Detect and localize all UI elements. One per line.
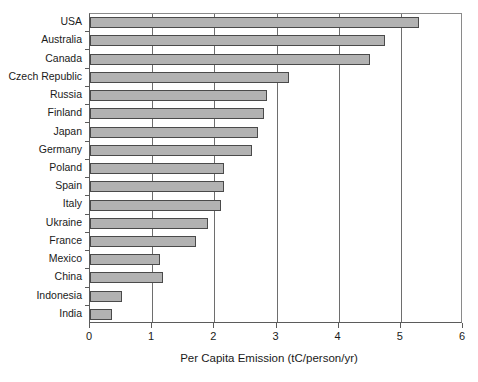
- bar-row: [90, 105, 461, 123]
- y-axis-label: Italy: [0, 198, 82, 209]
- bar: [90, 236, 196, 247]
- y-axis-label: Ukraine: [0, 217, 82, 228]
- x-axis-tick-label: 1: [136, 330, 166, 342]
- bar-row: [90, 87, 461, 105]
- y-axis-tick: [85, 287, 89, 288]
- bar-row: [90, 160, 461, 178]
- x-axis-tick-label: 5: [385, 330, 415, 342]
- bar-row: [90, 233, 461, 251]
- bar-row: [90, 306, 461, 324]
- y-axis-tick: [85, 159, 89, 160]
- y-axis-label: France: [0, 235, 82, 246]
- x-axis-tick: [400, 323, 401, 328]
- bar-row: [90, 14, 461, 32]
- bar-series: [90, 14, 461, 322]
- y-axis-label: India: [0, 308, 82, 319]
- y-axis-label: Spain: [0, 180, 82, 191]
- y-axis-label: Poland: [0, 162, 82, 173]
- bar: [90, 200, 221, 211]
- y-axis-label: USA: [0, 16, 82, 27]
- bar-row: [90, 32, 461, 50]
- y-axis-tick: [85, 195, 89, 196]
- bar: [90, 54, 370, 65]
- bar: [90, 254, 160, 265]
- y-axis-label: Australia: [0, 34, 82, 45]
- x-axis-tick: [151, 323, 152, 328]
- bar-row: [90, 142, 461, 160]
- y-axis-tick: [85, 305, 89, 306]
- y-axis-tick: [85, 122, 89, 123]
- y-axis-label: Mexico: [0, 253, 82, 264]
- bar: [90, 72, 289, 83]
- bar: [90, 309, 112, 320]
- bar: [90, 218, 208, 229]
- y-axis-tick: [85, 68, 89, 69]
- y-axis-label: Japan: [0, 126, 82, 137]
- bar-row: [90, 50, 461, 68]
- x-axis-tick-label: 6: [447, 330, 477, 342]
- bar-row: [90, 288, 461, 306]
- x-axis-tick-label: 4: [323, 330, 353, 342]
- x-axis-tick-label: 0: [74, 330, 104, 342]
- x-axis-tick: [89, 323, 90, 328]
- bar: [90, 17, 419, 28]
- x-axis-tick: [338, 323, 339, 328]
- y-axis-tick: [85, 268, 89, 269]
- bar: [90, 163, 224, 174]
- y-axis-label: Indonesia: [0, 290, 82, 301]
- bar: [90, 35, 385, 46]
- y-axis-label: Finland: [0, 107, 82, 118]
- x-axis-tick-label: 2: [198, 330, 228, 342]
- y-axis-label: China: [0, 271, 82, 282]
- y-axis-tick: [85, 232, 89, 233]
- x-axis-tick: [276, 323, 277, 328]
- y-axis-tick: [85, 31, 89, 32]
- bar: [90, 291, 122, 302]
- y-axis-tick: [85, 250, 89, 251]
- y-axis-tick: [85, 141, 89, 142]
- y-axis-label: Czech Republic: [0, 71, 82, 82]
- bar-row: [90, 69, 461, 87]
- bar-row: [90, 123, 461, 141]
- x-axis-title: Per Capita Emission (tC/person/yr): [0, 352, 478, 364]
- bar: [90, 181, 224, 192]
- bar-chart: USAAustraliaCanadaCzech RepublicRussiaFi…: [0, 0, 478, 382]
- bar: [90, 272, 163, 283]
- y-axis-tick: [85, 177, 89, 178]
- bar-row: [90, 251, 461, 269]
- y-axis-label: Russia: [0, 89, 82, 100]
- bar-row: [90, 215, 461, 233]
- bar: [90, 145, 252, 156]
- y-axis-tick: [85, 214, 89, 215]
- bar: [90, 108, 264, 119]
- bar-row: [90, 178, 461, 196]
- bar-row: [90, 269, 461, 287]
- plot-area: [89, 13, 462, 323]
- y-axis-label: Germany: [0, 144, 82, 155]
- bar-row: [90, 196, 461, 214]
- y-axis-label: Canada: [0, 53, 82, 64]
- x-axis-tick: [462, 323, 463, 328]
- y-axis-tick: [85, 104, 89, 105]
- y-axis-tick: [85, 86, 89, 87]
- bar: [90, 90, 267, 101]
- x-axis-tick: [213, 323, 214, 328]
- y-axis-tick: [85, 49, 89, 50]
- bar: [90, 127, 258, 138]
- x-axis-tick-label: 3: [261, 330, 291, 342]
